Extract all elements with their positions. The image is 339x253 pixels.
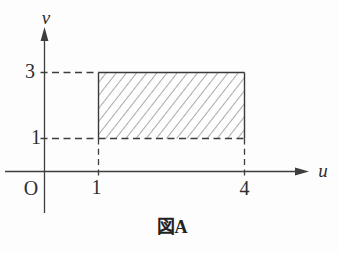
v-tick-1: 1 <box>31 126 41 148</box>
origin-label: O <box>24 177 38 199</box>
figure-caption: 図A <box>157 217 188 237</box>
figure-a-diagram: v u O 3 1 1 4 図A <box>0 0 339 253</box>
u-axis-arrowhead <box>295 168 309 176</box>
hatched-region <box>99 73 245 139</box>
u-tick-1: 1 <box>92 176 102 198</box>
v-axis-arrowhead <box>41 27 49 41</box>
u-axis-label: u <box>318 160 328 181</box>
u-tick-4: 4 <box>240 177 250 199</box>
v-tick-3: 3 <box>25 60 35 82</box>
uv-plane-plot: v u O 3 1 1 4 図A <box>0 0 339 253</box>
v-axis-label: v <box>42 7 51 28</box>
